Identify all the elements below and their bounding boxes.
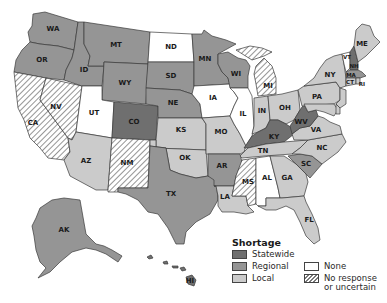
state-label-SC: SC <box>301 160 311 168</box>
state-label-TX: TX <box>166 190 177 198</box>
state-label-OH: OH <box>279 104 291 112</box>
state-label-ME: ME <box>356 40 368 48</box>
legend: Shortage Statewide Regional Local None N… <box>232 237 382 299</box>
state-label-NH: NH <box>349 63 359 69</box>
legend-label: No response or uncertain <box>324 274 377 292</box>
legend-title: Shortage <box>232 237 281 248</box>
state-label-MA: MA <box>346 72 356 78</box>
state-label-IL: IL <box>239 110 247 118</box>
state-label-NY: NY <box>325 71 337 79</box>
legend-label: None <box>324 262 346 271</box>
state-KS[interactable] <box>156 118 206 150</box>
state-label-CT: CT <box>346 79 354 85</box>
state-label-FL: FL <box>304 216 314 224</box>
state-label-NV: NV <box>50 103 62 111</box>
state-label-NC: NC <box>317 144 328 152</box>
legend-label: Local <box>252 274 274 283</box>
state-label-WI: WI <box>231 70 241 78</box>
state-label-CO: CO <box>128 118 139 126</box>
state-label-AZ: AZ <box>81 157 92 165</box>
state-label-TN: TN <box>258 147 269 155</box>
state-label-PA: PA <box>312 93 322 101</box>
state-label-MO: MO <box>215 128 228 136</box>
legend-item-local: Local <box>232 274 274 283</box>
state-label-OR: OR <box>36 56 48 64</box>
state-label-AL: AL <box>262 174 272 182</box>
state-label-IA: IA <box>209 94 218 102</box>
state-label-GA: GA <box>281 174 293 182</box>
legend-label: Statewide <box>252 250 294 259</box>
state-label-CA: CA <box>28 119 39 127</box>
legend-label-line2: or uncertain <box>324 282 376 292</box>
legend-swatch-no-response <box>304 274 319 283</box>
state-label-WV: WV <box>294 118 308 126</box>
state-label-LA: LA <box>220 193 230 201</box>
state-label-ND: ND <box>165 43 177 51</box>
state-AK[interactable] <box>32 198 122 278</box>
state-label-VT: VT <box>343 54 351 60</box>
state-label-WY: WY <box>119 79 133 87</box>
state-label-KS: KS <box>176 126 186 134</box>
legend-swatch-statewide <box>232 250 247 259</box>
state-label-MN: MN <box>199 55 212 63</box>
legend-swatch-local <box>232 274 247 283</box>
state-label-MS: MS <box>242 178 254 186</box>
state-label-KY: KY <box>269 133 280 141</box>
legend-label: Regional <box>252 262 289 271</box>
state-label-MI: MI <box>263 82 273 90</box>
state-label-AK: AK <box>59 226 70 234</box>
legend-item-none: None <box>304 262 346 271</box>
state-label-MT: MT <box>110 41 122 49</box>
legend-item-statewide: Statewide <box>232 250 294 259</box>
legend-item-no-response: No response or uncertain <box>304 274 377 292</box>
state-label-WA: WA <box>47 25 60 33</box>
state-label-VA: VA <box>311 126 322 134</box>
state-label-ID: ID <box>80 66 89 74</box>
legend-item-regional: Regional <box>232 262 289 271</box>
state-label-UT: UT <box>89 109 100 117</box>
legend-swatch-regional <box>232 262 247 271</box>
legend-swatch-none <box>304 262 319 271</box>
state-label-OK: OK <box>179 154 191 162</box>
state-label-IN: IN <box>258 107 267 115</box>
state-label-SD: SD <box>166 72 177 80</box>
state-label-RI: RI <box>359 81 365 87</box>
state-label-AR: AR <box>217 162 228 170</box>
state-label-HI: HI <box>186 277 194 285</box>
state-label-NE: NE <box>168 99 179 107</box>
state-label-NM: NM <box>121 159 134 167</box>
